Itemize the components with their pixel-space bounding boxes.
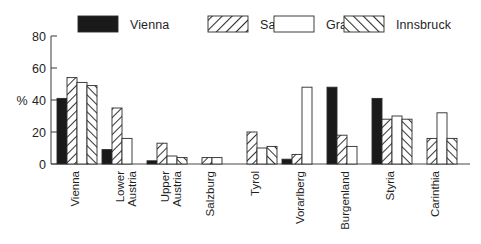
bar-vienna-vienna	[57, 98, 67, 164]
bar-upper-austria-graz	[167, 156, 177, 164]
backward-hatch-swatch-icon	[344, 16, 384, 32]
x-axis-labels: Vienna Lower Austria Upper Austria Salzb…	[69, 170, 441, 229]
x-label-tyrol: Tyrol	[249, 171, 261, 196]
bar-group-styria	[372, 98, 412, 164]
x-label-burgenland: Burgenland	[339, 171, 351, 230]
bar-burgenland-graz	[347, 146, 357, 164]
x-label-vienna: Vienna	[69, 170, 81, 206]
y-tick-label-40: 40	[32, 94, 46, 108]
chart-legend: Vienna Salzburg Graz Innsbruck	[78, 16, 452, 32]
x-label-upper-austria-line2: Austria	[171, 170, 183, 206]
bar-carinthia-innsbruck	[447, 138, 457, 164]
bar-upper-austria-vienna	[147, 161, 157, 164]
bar-vienna-salzburg	[67, 78, 77, 164]
bar-upper-austria-innsbruck	[177, 158, 187, 164]
bar-vorarlberg-graz	[302, 87, 312, 164]
bar-lower-austria-graz	[122, 138, 132, 164]
solid-black-swatch-icon	[78, 16, 118, 32]
bars-layer	[57, 78, 457, 164]
bar-group-salzburg	[202, 158, 222, 164]
legend-item-innsbruck: Innsbruck	[344, 16, 452, 32]
bar-carinthia-graz	[437, 113, 447, 164]
bar-styria-graz	[392, 116, 402, 164]
legend-item-graz: Graz	[274, 16, 354, 32]
bar-tyrol-graz	[257, 148, 267, 164]
bar-group-upper-austria	[147, 143, 187, 164]
bar-group-carinthia	[427, 113, 457, 164]
x-label-vorarlberg: Vorarlberg	[294, 171, 306, 224]
bar-vorarlberg-vienna	[282, 159, 292, 164]
bar-styria-innsbruck	[402, 119, 412, 164]
legend-label-innsbruck: Innsbruck	[396, 18, 452, 32]
x-label-carinthia: Carinthia	[429, 170, 441, 217]
y-axis: 80 60 40 20 0 %	[16, 30, 57, 172]
bar-upper-austria-salzburg	[157, 143, 167, 164]
bar-group-burgenland	[327, 87, 357, 164]
y-tick-label-80: 80	[32, 30, 46, 44]
bar-burgenland-salzburg	[337, 135, 347, 164]
bar-group-vienna	[57, 78, 97, 164]
legend-item-vienna: Vienna	[78, 16, 169, 32]
bar-vorarlberg-salzburg	[292, 154, 302, 164]
bar-lower-austria-salzburg	[112, 108, 122, 164]
legend-label-vienna: Vienna	[130, 18, 169, 32]
y-tick-label-0: 0	[39, 158, 46, 172]
bar-salzburg-graz	[212, 158, 222, 164]
bar-styria-vienna	[372, 98, 382, 164]
forward-hatch-swatch-icon	[208, 16, 248, 32]
bar-tyrol-salzburg	[247, 132, 257, 164]
bar-burgenland-vienna	[327, 87, 337, 164]
x-label-lower-austria-line2: Austria	[126, 170, 138, 206]
bar-lower-austria-vienna	[102, 150, 112, 164]
bar-tyrol-innsbruck	[267, 146, 277, 164]
y-tick-label-60: 60	[32, 62, 46, 76]
bar-vienna-graz	[77, 82, 87, 164]
bar-group-tyrol	[247, 132, 277, 164]
bar-group-vorarlberg	[282, 87, 312, 164]
bar-group-lower-austria	[102, 108, 132, 164]
x-label-lower-austria-line1: Lower	[114, 171, 126, 202]
x-label-upper-austria-line1: Upper	[159, 171, 171, 202]
y-tick-label-20: 20	[32, 126, 46, 140]
chart-svg: Vienna Salzburg Graz Innsbruck 80	[0, 0, 481, 244]
x-label-styria: Styria	[384, 170, 396, 200]
bar-vienna-innsbruck	[87, 86, 97, 164]
bar-styria-salzburg	[382, 119, 392, 164]
bar-carinthia-salzburg	[427, 138, 437, 164]
bar-salzburg-salzburg	[202, 158, 212, 164]
y-axis-title: %	[16, 94, 27, 108]
white-swatch-icon	[274, 16, 314, 32]
bar-chart: Vienna Salzburg Graz Innsbruck 80	[0, 0, 481, 244]
x-label-salzburg: Salzburg	[204, 171, 216, 216]
